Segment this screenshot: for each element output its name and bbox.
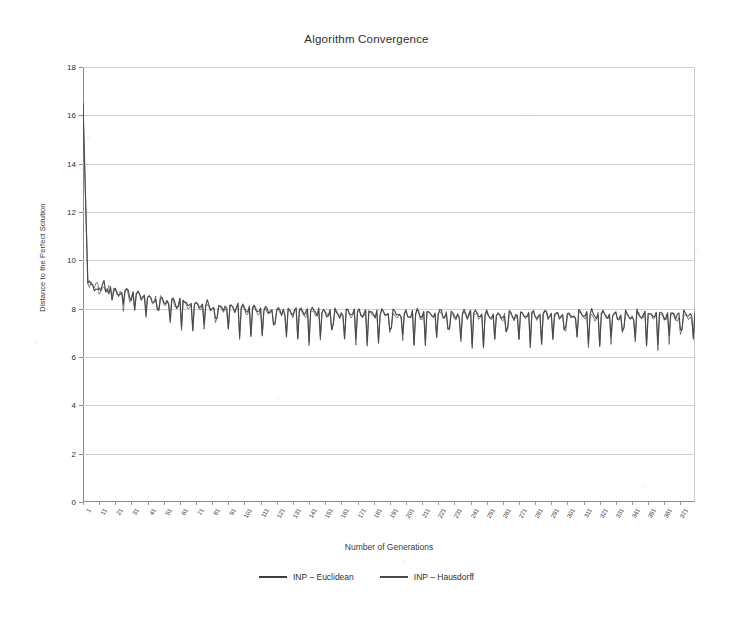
x-tick-mark bbox=[535, 502, 536, 505]
x-tick-mark bbox=[293, 502, 294, 505]
x-tick-mark bbox=[212, 502, 213, 505]
x-tick-label: 311 bbox=[582, 507, 593, 519]
x-tick-mark bbox=[680, 502, 681, 505]
y-tick-label: 16 bbox=[67, 111, 76, 120]
plot-area: 024681012141618 111213141516171819110111… bbox=[83, 67, 695, 502]
x-tick-mark bbox=[228, 502, 229, 505]
x-tick-mark bbox=[99, 502, 100, 505]
x-tick-mark bbox=[390, 502, 391, 505]
x-tick-mark bbox=[519, 502, 520, 505]
x-tick-mark bbox=[551, 502, 552, 505]
x-tick-mark bbox=[309, 502, 310, 505]
x-tick-mark bbox=[422, 502, 423, 505]
chart-figure: Algorithm Convergence Distance to the Pe… bbox=[0, 0, 733, 623]
x-tick-mark bbox=[164, 502, 165, 505]
x-tick-mark bbox=[438, 502, 439, 505]
x-tick-label: 191 bbox=[388, 507, 399, 519]
x-tick-label: 371 bbox=[678, 507, 689, 519]
x-tick-label: 51 bbox=[163, 507, 172, 516]
x-tick-label: 321 bbox=[598, 507, 609, 519]
x-tick-label: 111 bbox=[259, 507, 270, 518]
x-tick-mark bbox=[664, 502, 665, 505]
y-tick-label: 12 bbox=[67, 208, 76, 217]
x-tick-mark bbox=[584, 502, 585, 505]
legend-item[interactable]: INP – Hausdorff bbox=[380, 572, 474, 582]
legend-swatch-hausdorff bbox=[380, 576, 408, 578]
x-tick-mark bbox=[406, 502, 407, 505]
x-tick-label: 221 bbox=[436, 507, 447, 519]
x-tick-label: 1 bbox=[84, 507, 92, 513]
x-tick-mark bbox=[632, 502, 633, 505]
x-tick-label: 101 bbox=[242, 507, 253, 519]
x-tick-label: 131 bbox=[291, 507, 302, 519]
x-tick-label: 121 bbox=[275, 507, 286, 519]
y-axis-title: Distance to the Perfect Solution bbox=[38, 178, 47, 338]
x-tick-mark bbox=[180, 502, 181, 505]
legend-item-label: INP – Euclidean bbox=[293, 572, 354, 582]
x-tick-mark bbox=[83, 502, 84, 505]
x-tick-label: 261 bbox=[501, 507, 512, 519]
x-tick-label: 171 bbox=[355, 507, 366, 519]
x-tick-mark bbox=[487, 502, 488, 505]
x-tick-mark bbox=[358, 502, 359, 505]
x-tick-mark bbox=[131, 502, 132, 505]
x-tick-label: 41 bbox=[147, 507, 156, 516]
x-axis-title: Number of Generations bbox=[83, 542, 695, 552]
x-tick-mark bbox=[374, 502, 375, 505]
y-tick-label: 2 bbox=[72, 449, 76, 458]
x-tick-mark bbox=[115, 502, 116, 505]
x-tick-label: 11 bbox=[99, 507, 108, 516]
x-tick-label: 211 bbox=[420, 507, 431, 519]
x-tick-label: 291 bbox=[549, 507, 560, 519]
x-tick-label: 61 bbox=[180, 507, 189, 516]
x-tick-label: 71 bbox=[196, 507, 205, 516]
x-tick-mark bbox=[325, 502, 326, 505]
x-tick-mark bbox=[148, 502, 149, 505]
legend-item-label: INP – Hausdorff bbox=[414, 572, 474, 582]
chart-title: Algorithm Convergence bbox=[0, 33, 733, 45]
x-tick-mark bbox=[616, 502, 617, 505]
x-tick-label: 141 bbox=[307, 507, 318, 519]
x-tick-label: 151 bbox=[323, 507, 334, 519]
x-tick-label: 271 bbox=[517, 507, 528, 519]
y-tick-label: 4 bbox=[72, 401, 76, 410]
y-tick-label: 14 bbox=[67, 159, 76, 168]
x-tick-mark bbox=[341, 502, 342, 505]
x-tick-mark bbox=[567, 502, 568, 505]
legend-item[interactable]: INP – Euclidean bbox=[259, 572, 354, 582]
x-tick-mark bbox=[454, 502, 455, 505]
x-tick-mark bbox=[600, 502, 601, 505]
x-tick-label: 251 bbox=[485, 507, 496, 519]
y-tick-label: 0 bbox=[72, 498, 76, 507]
y-tick-label: 8 bbox=[72, 304, 76, 313]
x-tick-label: 21 bbox=[115, 507, 124, 516]
y-tick-label: 6 bbox=[72, 353, 76, 362]
x-tick-label: 361 bbox=[662, 507, 673, 519]
x-tick-label: 351 bbox=[646, 507, 657, 519]
x-tick-mark bbox=[196, 502, 197, 505]
x-tick-label: 331 bbox=[614, 507, 625, 519]
x-tick-label: 231 bbox=[452, 507, 463, 519]
x-tick-label: 161 bbox=[339, 507, 350, 519]
x-tick-mark bbox=[244, 502, 245, 505]
x-tick-label: 91 bbox=[228, 507, 237, 516]
series-line-hausdorff bbox=[83, 106, 695, 351]
x-tick-label: 81 bbox=[212, 507, 221, 516]
series-plot bbox=[83, 67, 695, 502]
x-tick-mark bbox=[503, 502, 504, 505]
x-tick-label: 181 bbox=[372, 507, 383, 519]
legend-swatch-euclidean bbox=[259, 576, 287, 578]
x-tick-label: 31 bbox=[131, 507, 140, 516]
x-tick-label: 201 bbox=[404, 507, 415, 519]
x-tick-mark bbox=[277, 502, 278, 505]
x-tick-mark bbox=[648, 502, 649, 505]
y-tick-label: 18 bbox=[67, 63, 76, 72]
x-tick-label: 281 bbox=[533, 507, 544, 519]
x-tick-label: 301 bbox=[565, 507, 576, 519]
x-tick-label: 341 bbox=[630, 507, 641, 519]
y-tick-label: 10 bbox=[67, 256, 76, 265]
x-tick-label: 241 bbox=[469, 507, 480, 519]
chart-legend: INP – EuclideanINP – Hausdorff bbox=[0, 572, 733, 582]
x-tick-mark bbox=[261, 502, 262, 505]
x-tick-mark bbox=[471, 502, 472, 505]
